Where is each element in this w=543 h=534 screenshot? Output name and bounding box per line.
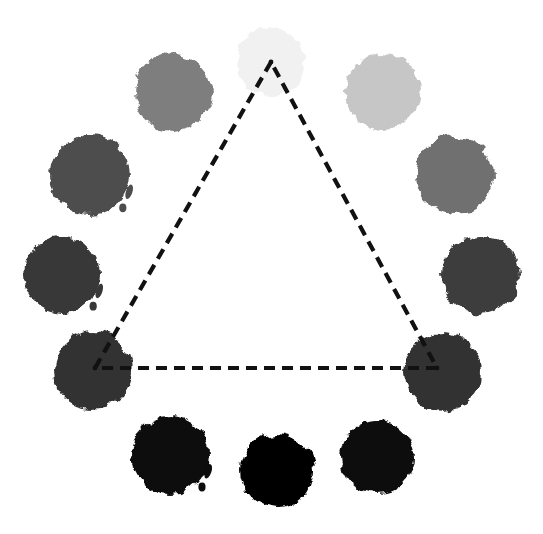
blot-upper-left xyxy=(135,54,211,130)
triangle-vertex-bottom-right xyxy=(435,366,440,371)
blot-lower-left-speck-2 xyxy=(198,483,205,492)
blot-bottom-right xyxy=(404,333,482,411)
blot-upper-left-shape xyxy=(135,54,211,130)
blot-right-upper-shape xyxy=(416,136,494,214)
figure-canvas xyxy=(0,0,543,534)
blot-left-middle-speck-2 xyxy=(90,302,97,311)
blot-lower-right-shape xyxy=(340,420,414,494)
blot-left-upper-shape xyxy=(50,135,130,215)
triangle-vertex-bottom-left xyxy=(93,366,98,371)
blot-lower-center-shape xyxy=(240,433,314,507)
blot-left-middle-shape xyxy=(24,237,100,313)
blot-right-middle xyxy=(441,236,519,314)
blot-bottom-right-shape xyxy=(404,333,482,411)
blot-upper-right-shape xyxy=(345,54,421,130)
blot-upper-right xyxy=(345,54,421,130)
blot-left-upper-speck-2 xyxy=(119,203,126,212)
blot-right-upper xyxy=(416,136,494,214)
triangle-vertex-apex xyxy=(269,60,274,65)
blot-lower-right xyxy=(340,420,414,494)
blot-lower-center xyxy=(240,433,314,507)
blot-lower-left-shape xyxy=(131,416,209,494)
blot-right-middle-shape xyxy=(441,236,519,314)
ink-blot-ring-chart xyxy=(0,0,543,534)
